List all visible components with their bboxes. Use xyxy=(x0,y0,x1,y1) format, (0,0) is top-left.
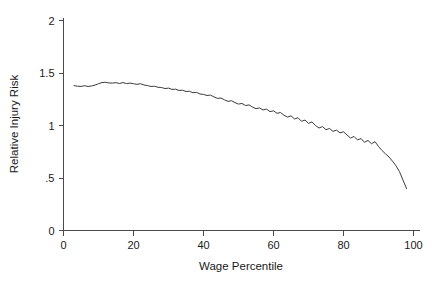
data-series-line xyxy=(74,82,407,188)
y-tick-label: 2 xyxy=(48,15,54,27)
y-axis-title: Relative Injury Risk xyxy=(8,75,20,174)
y-axis-tick-labels: 0.511.52 xyxy=(39,15,54,237)
y-tick-label: 1 xyxy=(48,120,54,132)
chart-container: 0.511.52 020406080100 Wage Percentile Re… xyxy=(0,0,438,283)
y-tick-label: 1.5 xyxy=(39,67,54,79)
y-axis-ticks xyxy=(59,21,64,231)
y-tick-label: 0 xyxy=(48,225,54,237)
x-tick-label: 40 xyxy=(197,239,209,251)
x-tick-label: 80 xyxy=(337,239,349,251)
x-axis-tick-labels: 020406080100 xyxy=(60,239,422,251)
x-axis-ticks xyxy=(64,231,414,236)
x-tick-label: 100 xyxy=(404,239,422,251)
x-axis-group: 020406080100 xyxy=(60,231,422,251)
x-tick-label: 20 xyxy=(127,239,139,251)
y-axis-group: 0.511.52 xyxy=(39,15,63,237)
x-tick-label: 0 xyxy=(60,239,66,251)
x-axis-title: Wage Percentile xyxy=(199,260,283,272)
x-tick-label: 60 xyxy=(267,239,279,251)
line-chart: 0.511.52 020406080100 Wage Percentile Re… xyxy=(0,0,438,283)
y-tick-label: .5 xyxy=(45,172,54,184)
